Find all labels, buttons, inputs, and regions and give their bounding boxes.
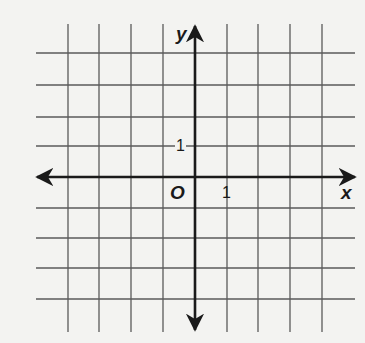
x-axis-label: x [341, 183, 352, 202]
y-tick-label-1: 1 [175, 138, 186, 154]
y-axis-label: y [176, 24, 187, 43]
coordinate-plane: y x O 1 1 [0, 0, 365, 343]
grid-svg [0, 0, 365, 343]
origin-label: O [170, 183, 185, 202]
x-tick-label-1: 1 [221, 185, 232, 201]
